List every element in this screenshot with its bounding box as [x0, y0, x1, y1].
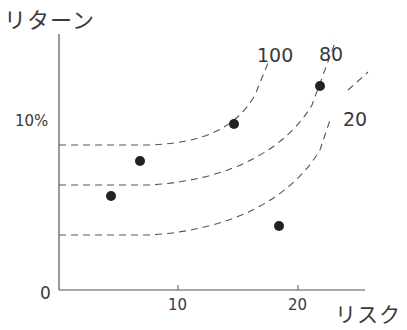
x-tick-label-10: 10 [168, 296, 187, 314]
curve-100 [59, 63, 268, 145]
chart-plot-area [0, 0, 407, 330]
curve-20-upper [348, 72, 368, 90]
x-tick-label-20: 20 [288, 296, 307, 314]
y-tick-label-10pct: 10% [15, 112, 48, 130]
y-axis-title: リターン [4, 2, 95, 34]
curve-label-80: 80 [319, 43, 343, 65]
curve-label-20: 20 [343, 108, 367, 130]
data-point [315, 81, 325, 91]
curve-20-lower [59, 120, 330, 235]
curve-label-100: 100 [257, 44, 293, 66]
x-axis-title: リスク [335, 298, 401, 328]
data-point [135, 156, 145, 166]
data-point [229, 119, 239, 129]
origin-label: 0 [40, 283, 51, 303]
data-point [106, 191, 116, 201]
data-point [274, 221, 284, 231]
curve-80 [59, 40, 336, 185]
